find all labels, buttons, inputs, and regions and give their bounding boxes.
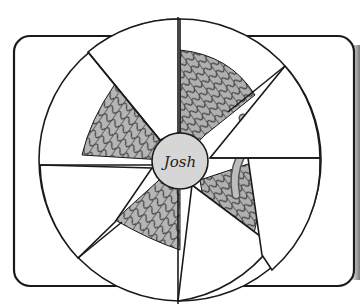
puzzle-illustration: Josh: [0, 0, 360, 304]
center-label: Josh: [161, 153, 196, 171]
rope-wheel-graphic: Josh: [0, 0, 360, 304]
